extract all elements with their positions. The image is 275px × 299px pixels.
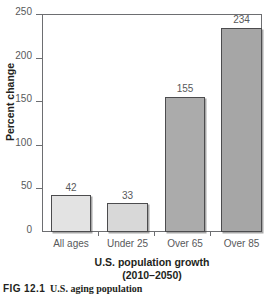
x-category-under-25: Under 25 (97, 238, 158, 249)
bar-value-all-ages: 42 (46, 183, 96, 193)
y-tick-label-100: 100 (15, 138, 32, 148)
y-tick-label-0: 0 (26, 225, 32, 235)
x-axis-title: U.S. population growth (2010–2050) (42, 256, 262, 281)
bar-value-under-25: 33 (102, 191, 153, 201)
y-tick-label-250: 250 (15, 7, 32, 17)
y-tick-label-200: 200 (15, 51, 32, 61)
x-category-over-65: Over 65 (155, 238, 215, 249)
bar-over-65 (165, 97, 205, 232)
x-axis-title-line2: (2010–2050) (122, 269, 182, 281)
figure-number: FIG 12.1 (3, 283, 45, 294)
x-category-all-ages: All ages (41, 238, 101, 249)
bar-value-over-85: 234 (216, 15, 267, 25)
y-tick-label-150: 150 (15, 94, 32, 104)
y-axis-title: Percent change (4, 47, 16, 157)
bar-under-25 (107, 203, 148, 232)
x-tick-1 (98, 232, 99, 236)
bar-value-over-65: 155 (160, 84, 210, 94)
x-category-over-85: Over 85 (211, 238, 272, 249)
y-tick-label-50: 50 (21, 181, 32, 191)
figure-container: Percent change 250 200 150 100 50 0 42 A… (0, 0, 275, 299)
bar-over-85 (221, 28, 262, 232)
figure-caption-text: U.S. aging population (50, 283, 142, 294)
figure-caption: FIG 12.1U.S. aging population (3, 283, 142, 295)
x-tick-2 (154, 232, 155, 236)
x-axis-title-line1: U.S. population growth (95, 256, 210, 268)
x-tick-3 (210, 232, 211, 236)
bar-all-ages (51, 195, 91, 232)
